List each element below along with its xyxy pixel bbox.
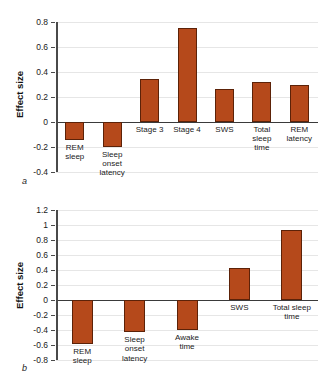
x-axis-category-label: Awake time — [165, 333, 209, 351]
gridline — [56, 210, 318, 211]
plot-area-a: -0.4-0.200.20.40.60.8REM sleepSleep onse… — [56, 22, 318, 172]
bar — [72, 300, 93, 344]
bar — [229, 268, 250, 300]
chart-panel-b: Effect size -0.8-0.6-0.4-0.200.20.40.60.… — [0, 191, 328, 382]
y-axis-tick-label: -0.4 — [14, 326, 48, 335]
y-axis-tick-label: -0.6 — [14, 341, 48, 350]
figure-effect-size-panels: Effect size -0.4-0.200.20.40.60.8REM sle… — [0, 0, 328, 382]
bar — [252, 82, 271, 122]
chart-panel-a: Effect size -0.4-0.200.20.40.60.8REM sle… — [0, 0, 328, 191]
y-axis-tick-label: 0 — [14, 296, 48, 305]
y-axis-tick — [51, 22, 55, 23]
y-axis-tick-label: 0.4 — [14, 266, 48, 275]
gridline — [56, 240, 318, 241]
y-axis-tick — [51, 345, 55, 346]
gridline — [56, 255, 318, 256]
panel-letter-a: a — [22, 176, 27, 186]
x-axis-category-label: Sleep onset latency — [113, 335, 157, 363]
y-axis-tick-label: 0.8 — [14, 236, 48, 245]
plot-area-b: -0.8-0.6-0.4-0.200.20.40.60.811.2REM sle… — [56, 210, 318, 360]
y-axis-spine — [56, 210, 58, 360]
y-axis-tick — [51, 210, 55, 211]
y-axis-tick-label: 0.6 — [14, 251, 48, 260]
bar — [103, 122, 122, 147]
y-axis-tick-label: -0.8 — [14, 356, 48, 365]
y-axis-tick — [51, 255, 55, 256]
y-axis-tick-label: 0.8 — [14, 18, 48, 27]
y-axis-tick — [51, 97, 55, 98]
y-axis-tick-label: -0.2 — [14, 143, 48, 152]
panel-letter-b: b — [22, 363, 27, 373]
y-axis-tick-label: -0.4 — [14, 168, 48, 177]
y-axis-tick — [51, 330, 55, 331]
gridline — [56, 225, 318, 226]
bar — [124, 300, 145, 332]
y-axis-tick — [51, 240, 55, 241]
gridline — [56, 270, 318, 271]
y-axis-tick-label: 0.2 — [14, 281, 48, 290]
y-axis-tick-label: -0.2 — [14, 311, 48, 320]
y-axis-tick — [51, 360, 55, 361]
gridline — [56, 22, 318, 23]
y-axis-tick — [51, 122, 55, 123]
y-axis-tick — [51, 225, 55, 226]
y-axis-tick — [51, 285, 55, 286]
y-axis-tick — [51, 270, 55, 271]
y-axis-tick — [51, 300, 55, 301]
bar — [140, 79, 159, 122]
bar — [215, 89, 234, 122]
x-axis-category-label: SWS — [217, 303, 261, 312]
gridline — [56, 285, 318, 286]
y-axis-tick-label: 0.6 — [14, 43, 48, 52]
y-axis-tick-label: 0 — [14, 118, 48, 127]
bar — [177, 300, 198, 330]
x-axis-category-label: Total sleep time — [262, 303, 322, 321]
y-axis-tick — [51, 172, 55, 173]
bar — [281, 230, 302, 301]
bar — [290, 85, 309, 123]
x-axis-category-label: Sleep onset latency — [90, 150, 134, 178]
x-axis-category-label: REM sleep — [60, 347, 104, 365]
y-axis-tick-label: 0.4 — [14, 68, 48, 77]
gridline — [56, 330, 318, 331]
bar — [65, 122, 84, 140]
y-axis-tick-label: 1.2 — [14, 206, 48, 215]
zero-baseline — [56, 122, 318, 123]
x-axis-category-label: REM latency — [277, 125, 321, 143]
y-axis-tick — [51, 72, 55, 73]
y-axis-tick — [51, 315, 55, 316]
y-axis-tick-label: 0.2 — [14, 93, 48, 102]
y-axis-tick — [51, 47, 55, 48]
y-axis-tick-label: 1 — [14, 221, 48, 230]
bar — [178, 28, 197, 122]
